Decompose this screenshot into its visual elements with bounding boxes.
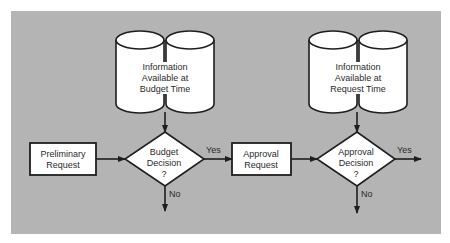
budget-decision-line-1: Budget <box>150 147 179 157</box>
info-request-line-2: Available at <box>335 73 382 83</box>
budget-decision-line-3: ? <box>161 169 166 179</box>
approval-no-label: No <box>361 189 373 199</box>
info-budget-line-1: Information <box>142 62 187 72</box>
approval-decision-line-1: Approval <box>338 147 374 157</box>
approval-decision-line-3: ? <box>353 169 358 179</box>
budget-no-label: No <box>169 189 181 199</box>
budget-decision-line-2: Decision <box>147 158 182 168</box>
preliminary-request-line-2: Request <box>46 160 80 170</box>
info-budget-line-3: Budget Time <box>140 84 191 94</box>
approval-request-line-2: Request <box>244 160 278 170</box>
preliminary-request-line-1: Preliminary <box>40 149 86 159</box>
info-request-line-1: Information <box>335 62 380 72</box>
budget-yes-label: Yes <box>206 145 221 155</box>
process-approval-request: Approval Request <box>232 143 291 175</box>
flowchart-diagram: Information Available at Budget Time Inf… <box>0 0 450 243</box>
process-preliminary-request: Preliminary Request <box>30 143 96 175</box>
info-request-line-3: Request Time <box>330 84 386 94</box>
approval-decision-line-2: Decision <box>339 158 374 168</box>
info-budget-line-2: Available at <box>142 73 189 83</box>
diagram-canvas: Information Available at Budget Time Inf… <box>0 0 450 243</box>
approval-yes-label: Yes <box>397 145 412 155</box>
approval-request-line-1: Approval <box>243 149 279 159</box>
